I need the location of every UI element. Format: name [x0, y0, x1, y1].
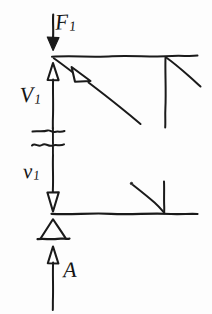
- upper-horizontal-wall: [52, 56, 198, 57]
- label-area-a-symbol: A: [63, 257, 77, 282]
- label-force-f1: F1: [54, 10, 76, 34]
- upper-velocity-arrow: [48, 63, 59, 129]
- lower-horizontal-wall: [52, 213, 198, 214]
- break-symbol: [32, 128, 65, 155]
- diagonal-flow-arrow: [54, 58, 141, 124]
- bottom-area-arrow: [48, 247, 59, 311]
- lower-right-hatch: [130, 182, 164, 214]
- lower-velocity-arrow: [47, 156, 58, 212]
- label-velocity-v1-upper-subscript: 1: [33, 92, 41, 107]
- label-velocity-v1-lower: v1: [22, 160, 40, 182]
- label-force-f1-subscript: 1: [68, 19, 76, 34]
- sketch-diagram: F1 V1 v1 A: [0, 0, 212, 314]
- label-velocity-v1-upper: V1: [19, 83, 41, 107]
- label-velocity-v1-upper-symbol: V: [19, 82, 34, 108]
- support-triangle: [38, 220, 70, 240]
- diagram-canvas: [0, 0, 212, 314]
- label-velocity-v1-lower-subscript: 1: [32, 168, 40, 183]
- label-area-a: A: [63, 259, 78, 283]
- upper-right-hatch: [165, 58, 200, 128]
